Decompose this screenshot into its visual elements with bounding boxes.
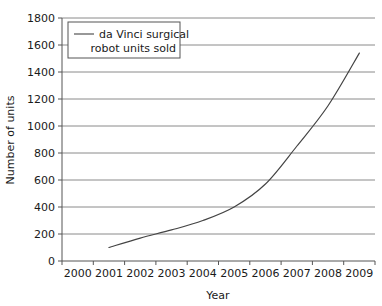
legend-label-line2: robot units sold xyxy=(90,42,176,55)
x-axis-tick-label: 2006 xyxy=(251,267,279,280)
legend-label-line1: da Vinci surgical xyxy=(99,28,189,41)
legend: da Vinci surgical robot units sold xyxy=(68,22,189,58)
y-axis-tick-label: 0 xyxy=(48,255,55,268)
y-axis-tick-label: 800 xyxy=(34,147,55,160)
y-axis-tick-label: 200 xyxy=(34,228,55,241)
x-axis-tick-label: 2003 xyxy=(158,267,186,280)
chart-container: 020040060080010001200140016001800 200020… xyxy=(0,0,382,306)
y-axis-tick-label: 1200 xyxy=(27,93,55,106)
y-axis-title: Number of units xyxy=(4,95,17,184)
x-axis-tick-label: 2008 xyxy=(314,267,342,280)
x-axis-tick-label: 2007 xyxy=(283,267,311,280)
y-axis-tick-label: 1400 xyxy=(27,66,55,79)
x-axis-tick-label: 2002 xyxy=(126,267,154,280)
y-axis-tick-label: 400 xyxy=(34,201,55,214)
line-chart: 020040060080010001200140016001800 200020… xyxy=(0,0,382,306)
x-axis-title: Year xyxy=(205,289,230,302)
y-axis-tick-label: 1800 xyxy=(27,12,55,25)
x-axis-tick-label: 2009 xyxy=(345,267,373,280)
x-axis-tick-label: 2004 xyxy=(189,267,217,280)
x-axis-tick-label: 2001 xyxy=(95,267,123,280)
x-axis-tick-label: 2000 xyxy=(64,267,92,280)
y-axis-tick-label: 1600 xyxy=(27,39,55,52)
y-axis-tick-label: 600 xyxy=(34,174,55,187)
y-axis-tick-label: 1000 xyxy=(27,120,55,133)
x-axis-tick-label: 2005 xyxy=(220,267,248,280)
